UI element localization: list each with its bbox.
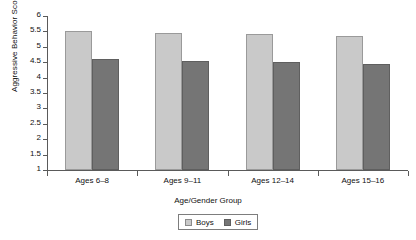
legend-swatch-boys-icon [185,219,192,226]
y-tick-label: 6 [37,10,41,19]
y-tick-label: 3.5 [30,87,41,96]
y-tick-label: 5 [37,41,41,50]
x-tick-mark [47,171,48,176]
y-tick-label: 4 [37,72,41,81]
y-tick-mark [43,78,48,79]
bar-boys-3 [336,36,363,170]
aggressive-behavior-bar-chart: Aggressive Behavior Score 65.554.543.532… [0,0,416,240]
y-tick-mark [43,16,48,17]
x-tick-label-2: Ages 12–14 [251,176,294,185]
legend-swatch-girls-icon [224,219,231,226]
x-tick-mark [408,171,409,176]
bar-boys-2 [246,34,273,170]
y-tick-mark [43,139,48,140]
legend-label-girls: Girls [235,218,251,227]
y-tick-mark [43,62,48,63]
x-tick-label-3: Ages 15–16 [342,176,385,185]
bar-girls-0 [92,59,119,170]
y-tick-label: 5.5 [30,25,41,34]
y-tick-label: 2 [37,133,41,142]
legend-entry-girls: Girls [224,218,251,227]
x-tick-label-1: Ages 9–11 [164,176,202,185]
y-tick-mark [43,108,48,109]
y-tick-label: 1 [37,164,41,173]
y-tick-mark [43,124,48,125]
y-axis-title: Aggressive Behavior Score [10,0,19,113]
bar-girls-3 [363,64,390,170]
legend-entry-boys: Boys [185,218,214,227]
y-tick-label: 4.5 [30,56,41,65]
bar-girls-1 [182,61,209,170]
y-tick-label: 3 [37,102,41,111]
x-tick-label-0: Ages 6–8 [75,176,109,185]
y-tick-mark [43,93,48,94]
y-tick-mark [43,31,48,32]
bar-boys-1 [155,33,182,170]
bar-girls-2 [273,62,300,170]
bar-boys-0 [65,31,92,170]
y-tick-label: 1.5 [30,149,41,158]
legend-label-boys: Boys [196,218,214,227]
x-tick-mark [318,171,319,176]
y-tick-mark [43,47,48,48]
legend: Boys Girls [178,214,258,230]
y-tick-mark [43,155,48,156]
x-axis-title: Age/Gender Group [0,196,416,205]
plot-area: 65.554.543.532.521.51 [47,16,408,170]
x-tick-mark [228,171,229,176]
x-tick-mark [137,171,138,176]
y-tick-label: 2.5 [30,118,41,127]
